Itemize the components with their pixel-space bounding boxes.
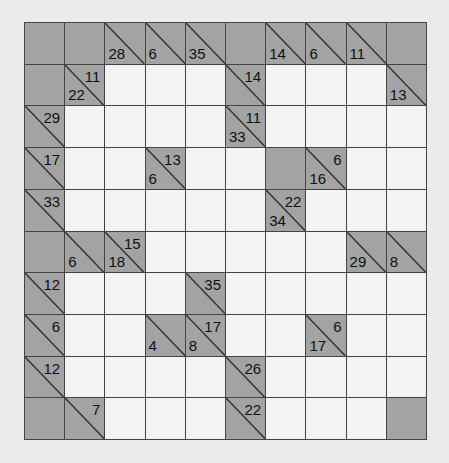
entry-cell[interactable] [186, 148, 225, 189]
entry-cell[interactable] [146, 273, 185, 314]
entry-cell[interactable] [306, 190, 345, 231]
entry-cell[interactable] [186, 232, 225, 273]
entry-cell[interactable] [226, 315, 265, 356]
entry-cell[interactable] [146, 232, 185, 273]
entry-cell[interactable] [146, 106, 185, 147]
entry-cell[interactable] [347, 106, 386, 147]
entry-cell[interactable] [105, 106, 144, 147]
entry-cell[interactable] [65, 190, 104, 231]
down-clue: 13 [390, 87, 407, 102]
clue-cell: 13 [387, 65, 426, 106]
entry-cell[interactable] [186, 106, 225, 147]
down-clue: 14 [269, 46, 286, 61]
entry-cell[interactable] [186, 398, 225, 439]
entry-cell[interactable] [186, 357, 225, 398]
entry-cell[interactable] [105, 273, 144, 314]
across-clue: 6 [52, 319, 60, 334]
clue-cell: 14 [266, 23, 305, 64]
entry-cell[interactable] [105, 315, 144, 356]
kakuro-board: 2863514611112214132911331713661633223461… [24, 22, 427, 440]
entry-cell[interactable] [146, 65, 185, 106]
entry-cell[interactable] [105, 357, 144, 398]
clue-cell: 616 [306, 148, 345, 189]
entry-cell[interactable] [266, 273, 305, 314]
entry-cell[interactable] [146, 357, 185, 398]
clue-cell: 1122 [65, 65, 104, 106]
across-clue: 22 [245, 402, 262, 417]
entry-cell[interactable] [347, 315, 386, 356]
entry-cell[interactable] [186, 190, 225, 231]
entry-cell[interactable] [347, 273, 386, 314]
down-clue: 33 [229, 129, 246, 144]
entry-cell[interactable] [146, 190, 185, 231]
entry-cell[interactable] [266, 315, 305, 356]
entry-cell[interactable] [266, 357, 305, 398]
entry-cell[interactable] [347, 190, 386, 231]
clue-cell: 4 [146, 315, 185, 356]
clue-cell: 1518 [105, 232, 144, 273]
entry-cell[interactable] [186, 65, 225, 106]
entry-cell[interactable] [226, 148, 265, 189]
block-cell [387, 398, 426, 439]
down-clue: 6 [309, 46, 317, 61]
clue-cell: 136 [146, 148, 185, 189]
clue-cell: 7 [65, 398, 104, 439]
across-clue: 33 [44, 194, 61, 209]
entry-cell[interactable] [306, 232, 345, 273]
clue-cell: 35 [186, 23, 225, 64]
entry-cell[interactable] [306, 398, 345, 439]
entry-cell[interactable] [387, 273, 426, 314]
across-clue: 35 [204, 277, 221, 292]
across-clue: 11 [85, 69, 101, 84]
entry-cell[interactable] [105, 190, 144, 231]
entry-cell[interactable] [387, 106, 426, 147]
down-clue: 16 [309, 171, 326, 186]
entry-cell[interactable] [226, 232, 265, 273]
down-clue: 6 [149, 171, 157, 186]
down-clue: 6 [149, 46, 157, 61]
entry-cell[interactable] [65, 273, 104, 314]
entry-cell[interactable] [65, 106, 104, 147]
entry-cell[interactable] [105, 65, 144, 106]
entry-cell[interactable] [347, 357, 386, 398]
across-clue: 17 [204, 319, 221, 334]
across-clue: 12 [44, 361, 61, 376]
down-clue: 8 [189, 338, 197, 353]
entry-cell[interactable] [226, 273, 265, 314]
entry-cell[interactable] [387, 190, 426, 231]
across-clue: 15 [124, 236, 141, 251]
clue-cell: 12 [25, 273, 64, 314]
clue-cell: 6 [65, 232, 104, 273]
clue-cell: 1133 [226, 106, 265, 147]
clue-cell: 178 [186, 315, 225, 356]
entry-cell[interactable] [266, 398, 305, 439]
entry-cell[interactable] [387, 315, 426, 356]
entry-cell[interactable] [65, 148, 104, 189]
entry-cell[interactable] [266, 232, 305, 273]
entry-cell[interactable] [306, 357, 345, 398]
entry-cell[interactable] [266, 65, 305, 106]
entry-cell[interactable] [387, 357, 426, 398]
entry-cell[interactable] [266, 106, 305, 147]
entry-cell[interactable] [306, 106, 345, 147]
clue-cell: 6 [146, 23, 185, 64]
entry-cell[interactable] [105, 398, 144, 439]
across-clue: 7 [92, 402, 100, 417]
entry-cell[interactable] [306, 273, 345, 314]
across-clue: 6 [333, 152, 341, 167]
entry-cell[interactable] [347, 398, 386, 439]
entry-cell[interactable] [387, 148, 426, 189]
block-cell [25, 398, 64, 439]
entry-cell[interactable] [105, 148, 144, 189]
entry-cell[interactable] [146, 398, 185, 439]
clue-cell: 8 [387, 232, 426, 273]
entry-cell[interactable] [347, 148, 386, 189]
block-cell [25, 65, 64, 106]
entry-cell[interactable] [65, 357, 104, 398]
entry-cell[interactable] [347, 65, 386, 106]
across-clue: 29 [44, 110, 61, 125]
entry-cell[interactable] [65, 315, 104, 356]
down-clue: 18 [108, 254, 125, 269]
entry-cell[interactable] [306, 65, 345, 106]
entry-cell[interactable] [226, 190, 265, 231]
